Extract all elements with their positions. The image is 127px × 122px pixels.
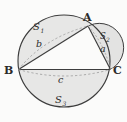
svg-text:1: 1 [41, 27, 45, 34]
vertex-label-A: A [82, 11, 92, 24]
svg-text:3: 3 [63, 100, 67, 107]
figure-canvas: B A C b a c S 1 S 2 S 3 [0, 0, 127, 122]
svg-text:2: 2 [105, 36, 110, 43]
vertex-label-C: C [113, 64, 122, 77]
side-label-a: a [100, 43, 106, 54]
geometry-figure: B A C b a c S 1 S 2 S 3 [0, 0, 127, 122]
vertex-label-B: B [4, 64, 13, 77]
svg-text:S: S [55, 94, 62, 105]
side-label-c: c [58, 74, 64, 85]
svg-text:S: S [33, 21, 40, 32]
side-label-b: b [36, 38, 42, 49]
